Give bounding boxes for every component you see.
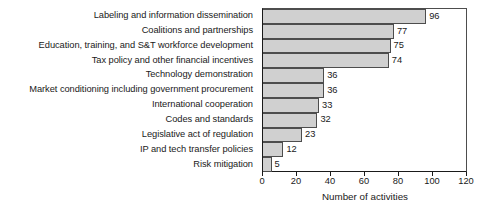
bar <box>263 24 394 39</box>
bars-container: 967775743636333223125 <box>263 9 467 172</box>
bar-value-label: 5 <box>275 160 280 169</box>
x-axis-tick-label: 40 <box>325 177 335 186</box>
horizontal-bar-chart: Labeling and information disseminationCo… <box>0 0 496 217</box>
bar <box>263 9 426 24</box>
category-label: Risk mitigation <box>0 157 258 172</box>
bar-value-label: 75 <box>394 41 404 50</box>
bar-row: 33 <box>263 98 467 113</box>
bar <box>263 113 317 128</box>
x-axis: 020406080100120 <box>262 172 468 192</box>
x-axis-tick-label: 100 <box>424 177 440 186</box>
bar-row: 74 <box>263 53 467 68</box>
category-label: International cooperation <box>0 97 258 112</box>
bar-row: 32 <box>263 113 467 128</box>
bar-value-label: 12 <box>286 145 296 154</box>
bar-row: 96 <box>263 9 467 24</box>
bar-value-label: 33 <box>322 101 332 110</box>
category-label: Education, training, and S&T workforce d… <box>0 38 258 53</box>
x-axis-tick-label: 20 <box>291 177 301 186</box>
bar-value-label: 36 <box>327 71 337 80</box>
x-axis-tick-label: 60 <box>359 177 369 186</box>
category-label: Coalitions and partnerships <box>0 23 258 38</box>
bar-row: 36 <box>263 68 467 83</box>
bar-value-label: 36 <box>327 86 337 95</box>
x-axis-tick-label: 0 <box>259 177 264 186</box>
x-axis-title: Number of activities <box>262 192 468 202</box>
category-label: Tax policy and other financial incentive… <box>0 53 258 68</box>
bar <box>263 39 391 54</box>
bar-row: 75 <box>263 39 467 54</box>
x-axis-tick-label: 120 <box>458 177 474 186</box>
bar-value-label: 77 <box>397 27 407 36</box>
bar <box>263 157 272 172</box>
bar-row: 23 <box>263 128 467 143</box>
bar-value-label: 32 <box>320 115 330 124</box>
bar-row: 5 <box>263 157 467 172</box>
bar-row: 77 <box>263 24 467 39</box>
bar-value-label: 96 <box>429 12 439 21</box>
category-label: IP and tech transfer policies <box>0 142 258 157</box>
bar <box>263 83 324 98</box>
category-label: Market conditioning including government… <box>0 83 258 98</box>
category-label: Technology demonstration <box>0 68 258 83</box>
bar-value-label: 74 <box>392 56 402 65</box>
bar <box>263 98 319 113</box>
bar <box>263 128 302 143</box>
bar <box>263 142 283 157</box>
bar-row: 36 <box>263 83 467 98</box>
x-axis-tick-label: 80 <box>393 177 403 186</box>
bar <box>263 53 389 68</box>
category-label: Codes and standards <box>0 112 258 127</box>
category-label: Legislative act of regulation <box>0 127 258 142</box>
bar <box>263 68 324 83</box>
category-label: Labeling and information dissemination <box>0 8 258 23</box>
category-axis-labels: Labeling and information disseminationCo… <box>0 8 258 172</box>
bar-row: 12 <box>263 142 467 157</box>
bar-value-label: 23 <box>305 130 315 139</box>
